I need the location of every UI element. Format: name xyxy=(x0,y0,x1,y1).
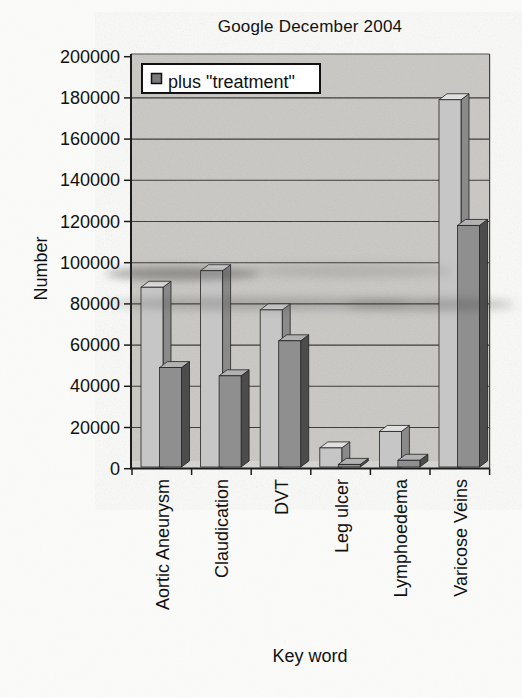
bar-front-face xyxy=(279,341,301,467)
y-tick-label-140000: 140000 xyxy=(60,170,120,190)
x-axis-label-lymphoedema: Lymphoedema xyxy=(391,478,411,597)
bar-series2-dvt xyxy=(279,335,309,467)
x-axis-label-varicose-veins: Varicose Veins xyxy=(451,479,471,597)
scanned-figure: 0200004000060000800001000001200001400001… xyxy=(0,0,522,698)
y-tick-label-60000: 60000 xyxy=(70,335,120,355)
y-tick-label-40000: 40000 xyxy=(70,376,120,396)
chart-title: Google December 2004 xyxy=(100,17,520,37)
bar-front-face xyxy=(219,376,241,467)
x-axis-label-aortic-aneurysm: Aortic Aneurysm xyxy=(153,479,173,610)
bar-series2-claudication xyxy=(219,370,249,467)
y-axis-title: Number xyxy=(31,214,52,324)
y-tick-label-100000: 100000 xyxy=(60,253,120,273)
y-tick-label-0: 0 xyxy=(110,459,120,479)
x-axis-label-leg-ulcer: Leg ulcer xyxy=(332,479,352,553)
bar-side-face xyxy=(241,370,249,467)
x-axis-title: Key word xyxy=(100,646,520,667)
y-tick-label-20000: 20000 xyxy=(70,418,120,438)
y-tick-label-160000: 160000 xyxy=(60,129,120,149)
bar-front-face xyxy=(398,460,420,467)
bar-front-face xyxy=(458,225,480,467)
bar-front-face xyxy=(338,464,360,467)
y-tick-label-200000: 200000 xyxy=(60,47,120,67)
legend-label: plus "treatment" xyxy=(168,72,295,92)
plot-area: 0200004000060000800001000001200001400001… xyxy=(0,0,522,698)
bar-series2-varicose-veins xyxy=(458,219,488,467)
legend: plus "treatment" xyxy=(142,64,320,93)
y-tick-label-80000: 80000 xyxy=(70,294,120,314)
y-tick-label-120000: 120000 xyxy=(60,212,120,232)
bar-front-face xyxy=(160,368,182,467)
bar-side-face xyxy=(301,335,309,467)
x-axis-label-dvt: DVT xyxy=(272,479,292,515)
bar-series2-aortic-aneurysm xyxy=(160,362,190,467)
bar-chart-canvas: 0200004000060000800001000001200001400001… xyxy=(0,0,522,698)
legend-marker-square xyxy=(152,74,162,84)
y-tick-label-180000: 180000 xyxy=(60,88,120,108)
bar-side-face xyxy=(182,362,190,467)
bar-side-face xyxy=(480,219,488,467)
x-axis-label-claudication: Claudication xyxy=(212,479,232,578)
